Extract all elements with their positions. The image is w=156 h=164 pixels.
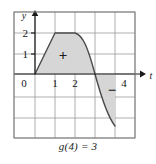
x-tick-label-1: 1 <box>52 77 58 89</box>
x-axis-label: t <box>150 70 153 81</box>
x-tick-label-4: 4 <box>121 77 127 89</box>
origin-label: 0 <box>21 77 27 89</box>
y-tick-label-2: 2 <box>23 27 29 39</box>
plot-background <box>14 12 135 138</box>
x-axis-arrowhead <box>140 71 146 78</box>
negative-sign-marker: − <box>108 82 117 98</box>
y-tick-label-1: 1 <box>23 48 29 60</box>
figure-caption: g(4) = 3 <box>0 140 156 152</box>
positive-sign-marker: + <box>59 47 68 63</box>
integral-sign-figure: y t 2 1 0 1 2 4 + − g(4) = 3 <box>0 0 156 164</box>
x-tick-label-2: 2 <box>72 77 78 89</box>
